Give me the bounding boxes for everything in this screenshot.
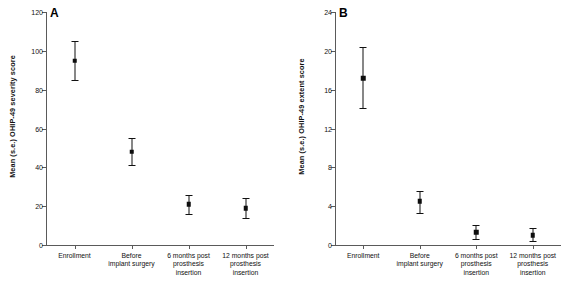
y-tick-label: 20 [324, 47, 332, 54]
x-tick-mark [75, 245, 76, 249]
y-tick-label: 100 [31, 47, 43, 54]
error-bar-cap-lower [128, 165, 135, 166]
y-axis-label-b: Mean (s.e.) OHIP-49 extent score [297, 27, 306, 207]
y-tick-label: 0 [39, 242, 43, 249]
x-tick-mark [189, 245, 190, 249]
error-bar-cap-lower [242, 218, 249, 219]
panel-a: A Mean (s.e.) OHIP-49 severity score 020… [0, 0, 287, 288]
plot-area-b: 04812162024EnrollmentBeforeimplant surge… [335, 12, 561, 246]
error-bar-cap-lower [360, 108, 367, 109]
error-bar-cap-upper [529, 228, 536, 229]
y-tick-label: 80 [35, 86, 43, 93]
data-point-marker [72, 58, 77, 63]
data-point-marker [243, 206, 248, 211]
x-axis-line-b [335, 245, 561, 246]
x-tick-mark [132, 245, 133, 249]
data-point-marker [531, 233, 536, 238]
x-tick-mark [246, 245, 247, 249]
y-tick-label: 120 [31, 9, 43, 16]
data-point-marker [361, 76, 366, 81]
panel-b: B Mean (s.e.) OHIP-49 extent score 04812… [287, 0, 574, 288]
y-tick-label: 60 [35, 125, 43, 132]
error-bar-cap-lower [185, 214, 192, 215]
y-tick-label: 0 [328, 242, 332, 249]
plot-area-a: 020406080100120EnrollmentBeforeimplant s… [46, 12, 274, 246]
error-bar-cap-upper [416, 191, 423, 192]
y-tick-label: 40 [35, 164, 43, 171]
y-tick-label: 8 [328, 164, 332, 171]
error-bar-cap-upper [185, 195, 192, 196]
y-axis-line-a [46, 12, 47, 246]
error-bar-cap-lower [71, 80, 78, 81]
error-bar-cap-upper [360, 47, 367, 48]
y-tick-label: 20 [35, 203, 43, 210]
y-tick-label: 16 [324, 86, 332, 93]
x-tick-mark [476, 245, 477, 249]
y-axis-label-a: Mean (s.e.) OHIP-49 severity score [8, 27, 17, 207]
error-bar-cap-upper [242, 198, 249, 199]
y-tick-label: 24 [324, 9, 332, 16]
figure-container: A Mean (s.e.) OHIP-49 severity score 020… [0, 0, 574, 288]
x-axis-category-label: 12 months postprosthesisinsertion [207, 252, 285, 277]
error-bar-cap-lower [473, 239, 480, 240]
x-tick-mark [533, 245, 534, 249]
error-bar-cap-lower [529, 241, 536, 242]
error-bar-cap-lower [416, 213, 423, 214]
data-point-marker [186, 202, 191, 207]
y-tick-label: 12 [324, 125, 332, 132]
error-bar-cap-upper [128, 138, 135, 139]
x-tick-mark [420, 245, 421, 249]
data-point-marker [129, 150, 134, 155]
data-point-marker [418, 199, 423, 204]
data-point-marker [474, 230, 479, 235]
y-tick-label: 4 [328, 203, 332, 210]
x-axis-category-label: 12 months postprosthesisinsertion [494, 252, 572, 277]
x-tick-mark [363, 245, 364, 249]
error-bar-cap-upper [71, 41, 78, 42]
y-axis-line-b [335, 12, 336, 246]
x-axis-line-a [46, 245, 274, 246]
error-bar-cap-upper [473, 225, 480, 226]
